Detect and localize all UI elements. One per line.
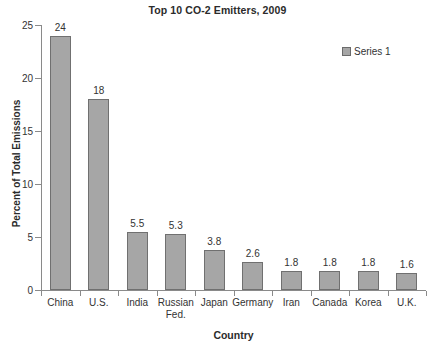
bar (88, 99, 109, 290)
bar (127, 232, 148, 290)
y-axis-tick-label: 0 (5, 285, 33, 296)
bar-value-label: 24 (41, 22, 80, 33)
bar-value-label: 1.8 (272, 257, 311, 268)
y-axis-tick (35, 184, 41, 185)
y-axis-tick-label: 10 (5, 179, 33, 190)
bar (165, 234, 186, 290)
x-axis-tick (41, 291, 42, 296)
x-axis-tick (80, 291, 81, 296)
legend-swatch-series-1 (342, 47, 351, 56)
y-axis-tick-label: 20 (5, 73, 33, 84)
bar-value-label: 1.8 (311, 257, 350, 268)
y-axis-tick-label: 15 (5, 126, 33, 137)
bar (50, 36, 71, 290)
bar-value-label: 5.5 (118, 218, 157, 229)
bar (204, 250, 225, 290)
x-axis-tick (234, 291, 235, 296)
y-axis-tick (35, 78, 41, 79)
x-axis-tick (195, 291, 196, 296)
x-axis-title: Country (41, 329, 426, 341)
x-axis-tick (272, 291, 273, 296)
chart-title: Top 10 CO-2 Emitters, 2009 (0, 4, 435, 16)
x-axis-tick (118, 291, 119, 296)
y-axis-tick (35, 237, 41, 238)
bar-value-label: 2.6 (234, 248, 273, 259)
x-axis-tick (157, 291, 158, 296)
bar-value-label: 18 (80, 85, 119, 96)
x-axis-tick (388, 291, 389, 296)
x-axis-category-label: U.K. (385, 297, 430, 309)
bar (242, 262, 263, 290)
bar (281, 271, 302, 290)
bar-value-label: 1.8 (349, 257, 388, 268)
bar (396, 273, 417, 290)
y-axis-tick-label: 5 (5, 232, 33, 243)
bar-value-label: 5.3 (157, 220, 196, 231)
y-axis-tick-labels: 0510152025 (0, 0, 33, 349)
y-axis-tick (35, 131, 41, 132)
x-axis-tick (311, 291, 312, 296)
bar-chart: Top 10 CO-2 Emitters, 2009 Series 1 Perc… (0, 0, 435, 349)
x-axis-tick (349, 291, 350, 296)
bar (319, 271, 340, 290)
x-axis-tick (426, 291, 427, 296)
legend-label-series-1: Series 1 (354, 46, 391, 57)
y-axis-tick-label: 25 (5, 20, 33, 31)
y-axis-line (41, 25, 42, 291)
chart-legend: Series 1 (342, 46, 391, 57)
bar-value-label: 3.8 (195, 236, 234, 247)
bar-value-label: 1.6 (388, 259, 427, 270)
bar (358, 271, 379, 290)
